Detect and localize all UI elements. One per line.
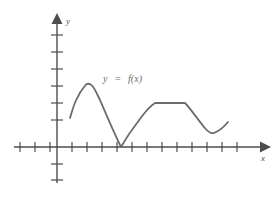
- curve-label-operator: =: [115, 73, 121, 84]
- svg-text:y = f(x): y = f(x): [102, 73, 143, 85]
- x-axis-label: x: [260, 153, 265, 163]
- curve-label-lhs: y: [102, 73, 108, 84]
- curve-label: y = f(x): [102, 73, 143, 85]
- y-axis-label: y: [65, 16, 70, 26]
- function-curve: [70, 84, 228, 147]
- figure-container: y x y = f(x): [0, 0, 275, 200]
- function-graph-plot: y x y = f(x): [0, 0, 275, 200]
- arrow-up-icon: [52, 13, 63, 24]
- curve-label-rhs: f(x): [128, 73, 143, 85]
- arrow-right-icon: [260, 142, 271, 153]
